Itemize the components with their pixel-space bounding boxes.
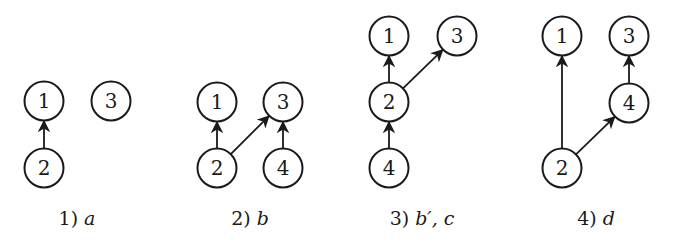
graph-node-3: 3: [610, 17, 649, 56]
graph-node-1: 1: [543, 17, 582, 56]
panel-caption: 3) b′, c: [390, 207, 455, 229]
panel-caption: 2) b: [231, 207, 269, 229]
diagram-panel-2: 13242) b: [198, 83, 303, 230]
panel-caption: 1) a: [59, 207, 96, 229]
diagram-panel-3: 13243) b′, c: [370, 17, 477, 230]
node-label: 4: [623, 91, 636, 115]
graph-node-2: 2: [198, 149, 237, 188]
caption-number: 2): [231, 207, 257, 229]
diagram-figure: 1321) a 13242) b 13243) b′, c 13424) d: [0, 0, 674, 244]
node-label: 2: [211, 156, 224, 180]
graph-node-2: 2: [543, 149, 582, 188]
edge-2-to-4: [576, 117, 615, 154]
edge-2-to-3: [403, 50, 443, 88]
node-label: 1: [556, 24, 569, 48]
caption-number: 1): [59, 207, 85, 229]
caption-number: 4): [577, 207, 603, 229]
node-label: 4: [383, 156, 396, 180]
node-label: 2: [556, 156, 569, 180]
node-label: 3: [105, 89, 118, 113]
graph-node-2: 2: [370, 83, 409, 122]
graph-node-1: 1: [198, 83, 237, 122]
node-label: 1: [383, 24, 396, 48]
graph-node-4: 4: [264, 149, 303, 188]
graph-node-4: 4: [610, 84, 649, 123]
caption-symbol: a: [84, 207, 95, 229]
caption-symbol: b′, c: [415, 207, 455, 229]
caption-number: 3): [390, 207, 416, 229]
graph-node-1: 1: [25, 82, 64, 121]
edge-2-to-3: [231, 116, 269, 154]
node-label: 2: [38, 156, 51, 180]
graph-node-3: 3: [92, 82, 131, 121]
node-label: 3: [277, 90, 290, 114]
node-label: 3: [451, 24, 464, 48]
node-label: 4: [277, 156, 290, 180]
diagram-panel-4: 13424) d: [543, 17, 649, 230]
graph-node-3: 3: [438, 17, 477, 56]
graph-node-2: 2: [25, 149, 64, 188]
node-label: 2: [383, 90, 396, 114]
node-label: 3: [623, 24, 636, 48]
graph-node-4: 4: [370, 149, 409, 188]
node-label: 1: [211, 90, 224, 114]
panel-caption: 4) d: [577, 207, 615, 229]
graph-node-3: 3: [264, 83, 303, 122]
graph-figure-svg: 1321) a 13242) b 13243) b′, c 13424) d: [0, 0, 674, 244]
diagram-panel-1: 1321) a: [25, 82, 131, 230]
caption-symbol: d: [603, 207, 615, 229]
graph-node-1: 1: [370, 17, 409, 56]
caption-symbol: b: [257, 207, 269, 229]
node-label: 1: [38, 89, 51, 113]
